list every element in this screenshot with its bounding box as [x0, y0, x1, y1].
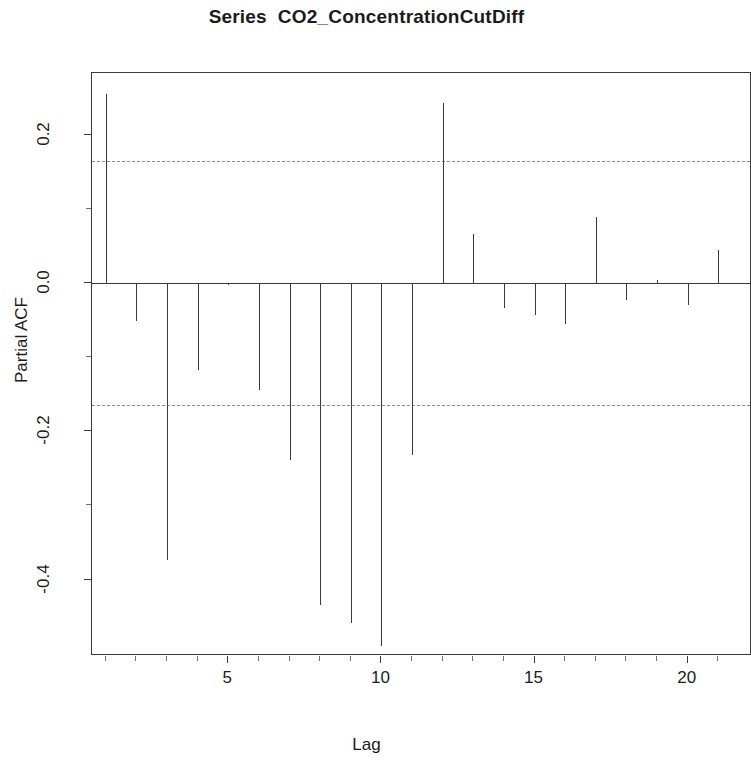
y-axis-minor-tick [86, 504, 91, 505]
y-axis-minor-tick [86, 356, 91, 357]
confidence-band-upper [92, 161, 750, 162]
y-axis-title: Partial ACF [12, 280, 32, 400]
x-axis-minor-tick [135, 656, 136, 661]
y-axis-tick-label-wrap: -0.2 [14, 420, 74, 440]
y-axis-tick-label: 0.0 [34, 252, 54, 312]
pacf-spike [381, 283, 382, 646]
x-axis-minor-tick [656, 656, 657, 661]
x-axis-minor-tick [595, 656, 596, 661]
x-axis-minor-tick [625, 656, 626, 661]
y-axis-tick-label: -0.4 [34, 549, 54, 609]
x-axis-minor-tick [105, 656, 106, 661]
pacf-spike [473, 234, 474, 283]
y-axis-tick-label-wrap: -0.4 [14, 569, 74, 589]
x-axis-minor-tick [442, 656, 443, 661]
zero-axis-line [92, 283, 750, 284]
pacf-spike [320, 283, 321, 605]
pacf-spike [290, 283, 291, 460]
pacf-spike [535, 283, 536, 315]
y-axis-tick-label-wrap: 0.2 [14, 124, 74, 144]
pacf-spike [228, 283, 229, 285]
x-axis-title: Lag [0, 735, 733, 755]
x-axis-minor-tick [472, 656, 473, 661]
x-axis-minor-tick [503, 656, 504, 661]
y-axis-tick [84, 430, 91, 431]
pacf-spike [596, 217, 597, 283]
x-axis-tick-label: 10 [350, 668, 410, 688]
pacf-spike [351, 283, 352, 623]
y-axis-minor-tick [86, 208, 91, 209]
x-axis-minor-tick [411, 656, 412, 661]
page-title: Series CO2_ConcentrationCutDiff [0, 6, 733, 28]
x-axis-tick [227, 656, 228, 663]
x-axis-minor-tick [319, 656, 320, 661]
x-axis-tick-label: 5 [197, 668, 257, 688]
pacf-spike [412, 283, 413, 455]
x-axis-minor-tick [289, 656, 290, 661]
x-axis-tick [534, 656, 535, 663]
pacf-spike [443, 103, 444, 283]
y-axis-tick-label: -0.2 [34, 400, 54, 460]
x-axis-tick-label: 15 [504, 668, 564, 688]
pacf-spike [565, 283, 566, 325]
pacf-spike [657, 280, 658, 283]
x-axis-minor-tick [564, 656, 565, 661]
x-axis-tick [380, 656, 381, 663]
y-axis-tick [84, 579, 91, 580]
x-axis-minor-tick [197, 656, 198, 661]
y-axis-tick [84, 282, 91, 283]
x-axis-tick [687, 656, 688, 663]
pacf-spike [136, 283, 137, 321]
plot-area [91, 72, 751, 655]
pacf-spike [718, 250, 719, 283]
confidence-band-lower [92, 405, 750, 406]
pacf-spike [167, 283, 168, 560]
pacf-spike [504, 283, 505, 308]
x-axis-minor-tick [717, 656, 718, 661]
y-axis-tick-label: 0.2 [34, 104, 54, 164]
x-axis-minor-tick [258, 656, 259, 661]
pacf-spike [106, 94, 107, 283]
pacf-spike [259, 283, 260, 390]
pacf-spike [688, 283, 689, 305]
pacf-spike [626, 283, 627, 300]
x-axis-minor-tick [166, 656, 167, 661]
x-axis-minor-tick [350, 656, 351, 661]
pacf-spike [198, 283, 199, 370]
x-axis-tick-label: 20 [657, 668, 717, 688]
y-axis-tick [84, 134, 91, 135]
